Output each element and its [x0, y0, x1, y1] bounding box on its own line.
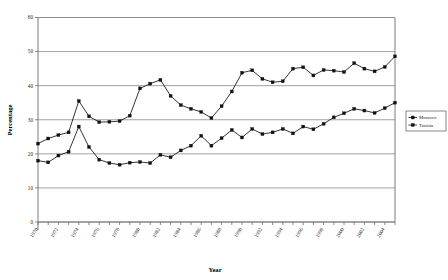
x-tick-label-1992: 1992 [253, 226, 264, 238]
y-tick-label-50: 50 [28, 48, 34, 54]
data-point [210, 144, 213, 147]
data-point [281, 127, 284, 130]
data-point [271, 81, 274, 84]
y-axis-title: Percentage [6, 104, 13, 135]
data-point [88, 146, 91, 149]
data-point [179, 104, 182, 107]
data-point [292, 67, 295, 70]
data-point [394, 101, 397, 104]
data-series-group [37, 55, 397, 166]
series-tunisia [37, 101, 397, 166]
data-point [302, 66, 305, 69]
data-point [128, 161, 131, 164]
data-point [322, 68, 325, 71]
data-point [169, 94, 172, 97]
data-point [108, 162, 111, 165]
grid-lines [38, 18, 395, 223]
legend-label-tunisia: Tunisia [419, 123, 434, 128]
data-point [159, 153, 162, 156]
data-point [139, 161, 142, 164]
data-point [210, 117, 213, 120]
data-point [37, 142, 40, 145]
x-axis-tick-labels: 1970197219741976197819801982198419861988… [28, 226, 385, 238]
x-tick-label-1986: 1986 [192, 226, 203, 238]
x-tick-label-1978: 1978 [110, 226, 121, 238]
data-point [261, 133, 264, 136]
data-point [343, 112, 346, 115]
data-point [353, 107, 356, 110]
data-point [200, 110, 203, 113]
data-point [179, 149, 182, 152]
legend-label-morocco: Morocco [419, 115, 437, 120]
data-point [67, 131, 70, 134]
data-point [332, 69, 335, 72]
x-tick-label-1996: 1996 [294, 226, 305, 238]
y-tick-label-30: 30 [28, 117, 34, 123]
data-point [108, 120, 111, 123]
plot-frame [38, 18, 395, 231]
data-point [383, 107, 386, 110]
x-tick-label-1974: 1974 [69, 226, 80, 238]
data-point [373, 111, 376, 114]
x-tick-label-1994: 1994 [273, 226, 284, 238]
data-point [67, 150, 70, 153]
data-point [332, 116, 335, 119]
data-point [98, 121, 101, 124]
data-point [373, 70, 376, 73]
y-tick-label-60: 60 [28, 14, 34, 20]
x-tick-label-1980: 1980 [130, 226, 141, 238]
chart-legend: MoroccoTunisia [406, 111, 446, 131]
data-point [343, 71, 346, 74]
x-tick-label-1982: 1982 [151, 226, 162, 238]
x-tick-label-2004: 2004 [375, 226, 386, 238]
data-point [128, 114, 131, 117]
data-point [149, 82, 152, 85]
data-point [220, 105, 223, 108]
x-tick-label-2002: 2002 [355, 226, 366, 238]
legend-box [406, 111, 446, 131]
data-point [302, 125, 305, 128]
y-axis-tick-labels: 0102030405060 [28, 14, 34, 225]
data-point [200, 134, 203, 137]
data-point [77, 100, 80, 103]
data-point [190, 144, 193, 147]
x-tick-label-1970: 1970 [28, 226, 39, 238]
legend-marker-morocco [411, 116, 414, 119]
data-point [383, 65, 386, 68]
data-point [149, 162, 152, 165]
data-point [118, 120, 121, 123]
data-point [159, 78, 162, 81]
x-tick-label-1998: 1998 [314, 226, 325, 238]
data-point [292, 132, 295, 135]
data-point [322, 122, 325, 125]
x-tick-label-1972: 1972 [49, 226, 60, 238]
data-point [47, 161, 50, 164]
data-point [353, 62, 356, 65]
data-point [251, 69, 254, 72]
y-tick-label-10: 10 [28, 185, 34, 191]
y-tick-label-20: 20 [28, 151, 34, 157]
data-point [118, 163, 121, 166]
data-point [190, 107, 193, 110]
data-point [281, 80, 284, 83]
data-point [98, 158, 101, 161]
data-point [220, 137, 223, 140]
x-tick-label-1990: 1990 [232, 226, 243, 238]
data-point [77, 125, 80, 128]
data-point [88, 115, 91, 118]
x-tick-label-2000: 2000 [334, 226, 345, 238]
data-point [394, 55, 397, 58]
data-point [57, 154, 60, 157]
data-point [241, 71, 244, 74]
data-point [47, 137, 50, 140]
chart-canvas: 0102030405060 19701972197419761978198019… [0, 0, 448, 280]
series-line-morocco [38, 56, 395, 143]
x-tick-label-1988: 1988 [212, 226, 223, 238]
data-point [363, 67, 366, 70]
data-point [271, 131, 274, 134]
line-chart: 0102030405060 19701972197419761978198019… [0, 0, 448, 280]
data-point [312, 74, 315, 77]
x-tick-label-1984: 1984 [171, 226, 182, 238]
data-point [251, 127, 254, 130]
data-point [37, 159, 40, 162]
